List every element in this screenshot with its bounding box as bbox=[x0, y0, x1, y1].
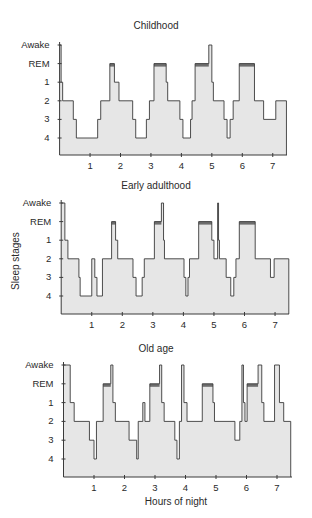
hypnogram-1 bbox=[59, 200, 289, 316]
y-tick-label: 3 bbox=[2, 434, 54, 445]
hypnogram-0 bbox=[58, 42, 287, 157]
y-tick-label: REM bbox=[0, 216, 51, 227]
x-tick-label: 5 bbox=[208, 319, 220, 330]
x-tick-label: 2 bbox=[116, 319, 128, 330]
x-tick-label: 4 bbox=[177, 319, 189, 330]
x-tick-label: 2 bbox=[119, 482, 131, 493]
y-tick-label: 3 bbox=[0, 113, 50, 124]
y-tick-label: REM bbox=[2, 378, 54, 389]
y-tick-label: REM bbox=[0, 58, 50, 69]
y-tick-label: Awake bbox=[2, 359, 54, 370]
x-axis-title: Hours of night bbox=[20, 496, 312, 507]
y-tick-label: 4 bbox=[0, 132, 50, 143]
x-tick-label: 7 bbox=[271, 482, 283, 493]
x-tick-label: 6 bbox=[239, 319, 251, 330]
x-tick-label: 6 bbox=[241, 482, 253, 493]
x-tick-label: 5 bbox=[210, 482, 222, 493]
chart-title: Early adulthood bbox=[0, 180, 312, 191]
y-tick-label: Awake bbox=[0, 39, 50, 50]
x-tick-label: 1 bbox=[84, 160, 96, 171]
x-tick-label: 7 bbox=[269, 319, 281, 330]
x-tick-label: 4 bbox=[180, 482, 192, 493]
y-tick-label: 4 bbox=[2, 453, 54, 464]
x-tick-label: 4 bbox=[175, 160, 187, 171]
x-tick-label: 3 bbox=[149, 482, 161, 493]
y-tick-label: 4 bbox=[0, 290, 51, 301]
y-tick-label: 1 bbox=[0, 76, 50, 87]
x-tick-label: 1 bbox=[86, 319, 98, 330]
chart-title: Childhood bbox=[0, 20, 312, 31]
y-tick-label: 2 bbox=[0, 253, 51, 264]
x-tick-label: 7 bbox=[267, 160, 279, 171]
y-tick-label: 1 bbox=[0, 234, 51, 245]
x-tick-label: 6 bbox=[236, 160, 248, 171]
x-tick-label: 1 bbox=[88, 482, 100, 493]
y-axis-title: Sleep stages bbox=[10, 232, 21, 290]
y-tick-label: 3 bbox=[0, 271, 51, 282]
y-tick-label: 2 bbox=[0, 95, 50, 106]
chart-title: Old age bbox=[0, 343, 312, 354]
hypnogram-2 bbox=[62, 362, 293, 479]
y-tick-label: 1 bbox=[2, 397, 54, 408]
x-tick-label: 2 bbox=[115, 160, 127, 171]
x-tick-label: 3 bbox=[147, 319, 159, 330]
x-tick-label: 5 bbox=[206, 160, 218, 171]
y-tick-label: 2 bbox=[2, 415, 54, 426]
y-tick-label: Awake bbox=[0, 197, 51, 208]
x-tick-label: 3 bbox=[145, 160, 157, 171]
